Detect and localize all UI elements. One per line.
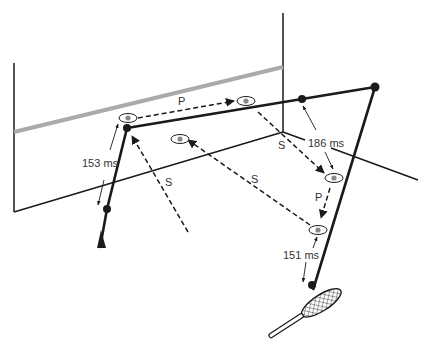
ball-direction-arrowhead	[97, 230, 106, 248]
eye-icon	[325, 174, 343, 183]
timing-label-151: 151 ms	[283, 250, 319, 261]
timing-153-upper	[110, 124, 118, 150]
eye-icon	[119, 114, 137, 123]
pursuit-label-right: P	[315, 192, 322, 203]
timing-186-upper	[303, 106, 316, 130]
ball-trajectory-diagram: P P S S S 153 ms 186 ms 151 ms	[0, 0, 428, 350]
floor-side-line	[283, 132, 305, 140]
ball-dot-3	[298, 95, 306, 103]
pursuit-right	[321, 188, 330, 218]
pursuit-top	[138, 101, 234, 118]
timing-label-186: 186 ms	[308, 138, 344, 149]
saccade-left	[132, 136, 188, 232]
timing-151-lower	[303, 262, 306, 282]
saccade-label-corner: S	[278, 140, 285, 151]
ball-dot-2	[123, 124, 131, 132]
racket-icon	[265, 284, 345, 344]
diagram-canvas	[0, 0, 428, 350]
ball-dot-4	[371, 83, 380, 92]
ball-trajectory	[97, 83, 380, 291]
pursuit-label-top: P	[178, 96, 185, 107]
saccade-label-middle: S	[251, 174, 258, 185]
ball-dot-5	[308, 281, 316, 289]
timing-label-153: 153 ms	[82, 158, 118, 169]
eye-icon	[309, 226, 327, 235]
eye-icon	[237, 97, 255, 106]
timing-151-upper	[313, 237, 317, 248]
floor-front-line	[14, 132, 283, 212]
ball-dot-1	[103, 205, 111, 213]
timing-153-lower	[98, 180, 104, 205]
saccade-label-left: S	[165, 177, 172, 188]
floor-side-line-2	[331, 148, 418, 180]
saccade-middle	[188, 140, 310, 225]
eye-movements	[132, 101, 330, 232]
eye-icon	[171, 135, 189, 144]
timing-186-lower	[325, 152, 333, 169]
